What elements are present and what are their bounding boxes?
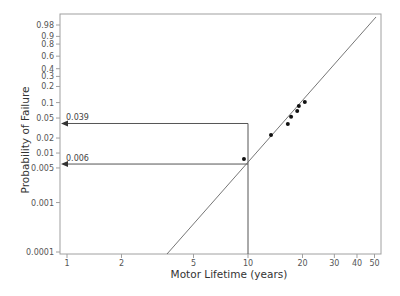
data-point	[297, 104, 301, 108]
y-tick-label: 0.005	[31, 164, 54, 173]
x-tick-label: 30	[329, 259, 339, 268]
y-axis-ticks: 0.00010.0010.0050.010.020.050.10.20.30.4…	[26, 21, 60, 257]
x-axis-title: Motor Lifetime (years)	[171, 268, 288, 280]
x-tick-label: 1	[64, 259, 69, 268]
plot-frame	[60, 14, 381, 254]
plot-border	[60, 14, 381, 254]
x-tick-label: 40	[352, 259, 362, 268]
x-tick-label: 20	[297, 259, 307, 268]
y-tick-label: 0.8	[41, 40, 54, 49]
y-tick-label: 0.2	[41, 82, 54, 91]
annotation-label: 0.039	[66, 113, 89, 122]
x-tick-label: 50	[369, 259, 379, 268]
annotation-label: 0.006	[66, 154, 89, 163]
y-tick-label: 0.001	[31, 199, 54, 208]
y-tick-label: 0.1	[41, 99, 54, 108]
data-points	[242, 100, 307, 161]
y-tick-label: 0.0001	[26, 248, 54, 257]
y-tick-label: 0.3	[41, 72, 54, 81]
x-tick-label: 5	[191, 259, 196, 268]
weibull-probability-plot: 0.00010.0010.0050.010.020.050.10.20.30.4…	[0, 0, 400, 296]
y-tick-label: 0.4	[41, 65, 54, 74]
y-tick-label: 0.01	[36, 149, 54, 158]
y-tick-label: 0.6	[41, 52, 54, 61]
annotation-arrows: 0.0390.006	[61, 113, 248, 254]
y-axis-title: Probability of Failure	[19, 87, 31, 194]
x-axis-ticks: 1251020304050	[64, 254, 379, 268]
y-tick-label: 0.9	[41, 32, 54, 41]
x-tick-label: 10	[243, 259, 253, 268]
data-point	[289, 115, 293, 119]
data-point	[242, 157, 246, 161]
data-point	[303, 100, 307, 104]
x-tick-label: 2	[119, 259, 124, 268]
y-tick-label: 0.02	[36, 134, 54, 143]
data-point	[295, 109, 299, 113]
data-point	[269, 133, 273, 137]
data-point	[286, 122, 290, 126]
y-tick-label: 0.05	[36, 114, 54, 123]
y-tick-label: 0.98	[36, 21, 54, 30]
